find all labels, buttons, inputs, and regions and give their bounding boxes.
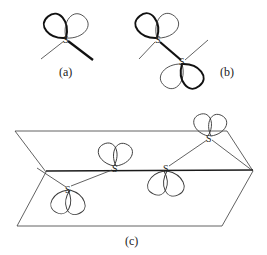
atom-s-c1: S <box>65 184 71 195</box>
panel-b: S S (b) <box>131 9 234 92</box>
fold-line <box>46 170 253 171</box>
chain-bond-3 <box>169 140 207 166</box>
atom-s-c2: S <box>112 163 118 174</box>
panel-a: S (a) <box>40 10 93 79</box>
atom-s-c4: S <box>206 133 212 144</box>
atom-s-1: S <box>155 34 161 45</box>
bond-thin-right <box>185 40 208 60</box>
lobe-thin-lower-left <box>156 58 190 93</box>
chain-bond-1 <box>71 170 112 186</box>
bond-thick-center <box>160 42 181 60</box>
orbital-diagram: S (a) S S (b) <box>0 0 267 255</box>
upper-plane-edge <box>15 131 253 171</box>
bond-thin-left <box>139 42 155 59</box>
lobe-thin-upper-right <box>149 9 183 44</box>
lobe-s4-left <box>191 111 216 139</box>
atom-s-c3: S <box>163 163 169 174</box>
bond-thick <box>68 41 93 60</box>
atom-s-2: S <box>179 56 185 67</box>
bond-thin <box>41 41 64 59</box>
upper-plane-left-edge <box>15 131 46 172</box>
atom-s: S <box>63 34 69 45</box>
panel-c: S S S S (c) <box>15 111 253 248</box>
lobe-bold-left <box>40 10 74 45</box>
chain-bond-4 <box>212 140 253 171</box>
panel-label-b: (b) <box>220 65 234 79</box>
panel-label-a: (a) <box>59 65 72 79</box>
panel-label-c: (c) <box>125 234 138 248</box>
